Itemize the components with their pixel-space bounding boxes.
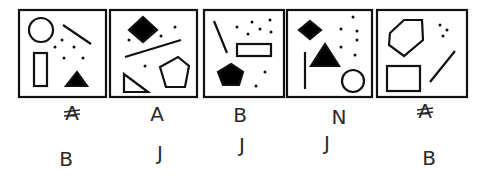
diamond-shape [299,21,321,39]
triangle-shape [66,72,87,86]
annotation-panel-3-row-2: J [237,133,245,157]
dot [144,65,147,68]
dot [54,46,57,49]
dot [236,26,239,29]
puzzle-sheet: ABAJBJNJAB [0,0,481,194]
annotation-panel-1-row-1: A [65,101,79,125]
handwritten-annotations: ABAJBJNJAB [59,99,436,171]
line-segment [63,25,91,44]
dot [340,46,343,49]
line-segment [214,21,227,53]
dot [128,39,131,42]
dot [442,35,445,38]
puzzle-canvas: ABAJBJNJAB [0,0,481,194]
dot [259,28,262,31]
annotation-panel-4-row-2: J [322,131,330,155]
dot [247,33,250,36]
dot [340,28,343,31]
dot [439,24,442,27]
panel-4 [287,10,372,97]
dot [174,26,177,29]
dot [270,31,273,34]
panel-5 [377,10,467,97]
triangle-shape [311,44,339,66]
dot [63,57,66,60]
annotation-panel-2-row-1: A [150,102,164,126]
panel-1 [19,10,106,97]
rectangle-shape [387,66,420,91]
annotation-panel-3-row-1: B [233,103,247,127]
diamond-shape [129,17,157,42]
dot [356,39,359,42]
triangle-shape [124,74,148,92]
dot [160,35,163,38]
annotation-panel-5-row-2: B [422,146,436,170]
dot [251,21,254,24]
line-segment [430,51,455,82]
rectangle-shape [34,53,47,86]
dot [61,39,64,42]
dot [352,16,355,19]
dot [264,71,267,74]
pentagon-shape [160,57,189,87]
panel-3 [204,10,284,97]
dot [354,54,357,57]
circle-shape [29,18,53,42]
annotation-panel-1-row-2: B [59,147,73,171]
line-segment [125,40,181,57]
rectangle-shape [237,44,271,56]
hexagon-shape [389,20,423,56]
dot [82,57,85,60]
panel-2 [110,10,197,97]
dot [255,85,258,88]
dot [269,19,272,22]
annotation-panel-5-row-1: A [418,99,432,123]
circle-shape [342,70,364,92]
figure-panels [19,10,467,97]
pentagon-shape [218,64,243,85]
dot [356,30,359,33]
annotation-panel-2-row-2: J [155,141,163,165]
dot [73,46,76,49]
dot [446,29,449,32]
annotation-panel-4-row-1: N [332,105,347,129]
